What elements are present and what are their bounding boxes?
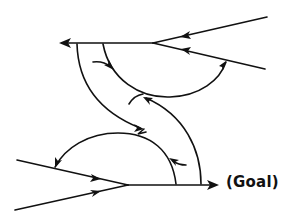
arrow-icon — [104, 60, 114, 70]
tick-line — [129, 94, 143, 104]
upper-right-bottom-line — [153, 43, 265, 69]
lower-left-top-line — [17, 160, 128, 185]
upper-right-top-line — [153, 17, 267, 43]
lower-arc — [55, 133, 176, 184]
goal-label: (Goal) — [226, 173, 279, 191]
lower-left-bottom-line — [15, 185, 128, 210]
upper-arc — [103, 44, 226, 97]
